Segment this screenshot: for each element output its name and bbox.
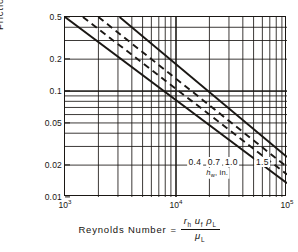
denominator-mu-sub: L	[201, 235, 205, 242]
chart-figure: Friction factor f 0.50.20.10.050.020.011…	[0, 0, 298, 252]
numerator-u-sub: f	[201, 221, 203, 228]
x-axis-title-equals: =	[170, 224, 176, 235]
y-tick-mark-0.5	[65, 16, 70, 17]
x-axis-title-text: Reynolds Number	[78, 224, 166, 235]
y-axis-title: Friction factor f	[0, 0, 5, 30]
x-tick-exponent: 3	[68, 198, 71, 205]
y-tick-label-0.2: 0.2	[50, 54, 62, 64]
units-suffix: , in.	[215, 168, 228, 177]
x-tick-label-1e3: 103	[59, 198, 72, 210]
series-line-1.5	[120, 17, 287, 157]
y-tick-mark-0.02	[65, 165, 70, 166]
y-tick-label-0.02: 0.02	[45, 160, 62, 170]
y-tick-label-0.05: 0.05	[45, 118, 62, 128]
y-tick-label-0.1: 0.1	[50, 86, 62, 96]
fraction-numerator: rh uf ρL	[181, 216, 220, 230]
numerator-r-sub: h	[187, 221, 191, 228]
curve-label-0.4: 0.4	[187, 157, 203, 167]
series-line-1.0	[98, 17, 287, 167]
x-tick-exponent: 5	[290, 198, 293, 205]
curve-label-1.0: 1.0	[223, 157, 239, 167]
x-tick-label-1e5: 105	[281, 198, 294, 210]
y-tick-mark-0.1	[65, 90, 70, 91]
y-tick-mark-0.05	[65, 122, 70, 123]
curve-label-0.7: 0.7	[206, 157, 222, 167]
curve-label-1.5: 1.5	[255, 157, 271, 167]
plot-area: 0.50.20.10.050.020.011031041050.40.71.01…	[64, 16, 286, 196]
curve-units-caption: hw, in.	[205, 168, 230, 179]
y-tick-label-0.5: 0.5	[50, 12, 62, 22]
x-tick-label-1e4: 104	[170, 198, 183, 210]
y-axis-title-text: Friction factor	[0, 0, 5, 30]
x-axis-title: Reynolds Number = rh uf ρL μL	[0, 216, 298, 243]
x-axis-title-fraction: rh uf ρL μL	[181, 216, 220, 243]
y-tick-mark-0.2	[65, 59, 70, 60]
plot-canvas	[65, 17, 287, 197]
numerator-rho-sub: L	[212, 221, 216, 228]
fraction-denominator: μL	[192, 230, 208, 243]
x-tick-exponent: 4	[179, 198, 182, 205]
